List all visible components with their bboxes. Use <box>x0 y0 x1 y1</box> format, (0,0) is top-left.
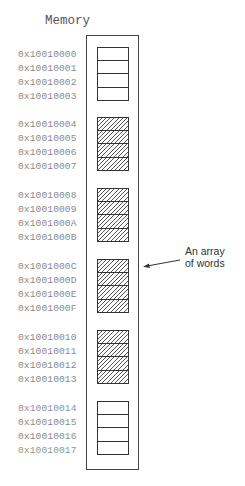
word-group-3 <box>97 259 129 313</box>
address-label: 0x10010004 <box>18 118 84 132</box>
address-label: 0x10010005 <box>18 132 84 146</box>
array-byte-cell <box>97 157 129 172</box>
address-label: 0x10010014 <box>18 402 84 416</box>
word-group-4 <box>97 330 129 384</box>
array-byte-cell <box>97 228 129 243</box>
address-label: 0x10010012 <box>18 359 84 373</box>
address-label: 0x10010002 <box>18 76 84 90</box>
address-label: 0x10010015 <box>18 416 84 430</box>
address-label: 0x10010003 <box>18 90 84 104</box>
array-byte-cell <box>97 370 129 385</box>
address-label: 0x10010006 <box>18 146 84 160</box>
address-label: 0x10010000 <box>18 48 84 62</box>
address-label: 0x1001000A <box>18 217 84 231</box>
address-label: 0x1001000F <box>18 302 84 316</box>
address-label: 0x10010007 <box>18 160 84 174</box>
memory-title: Memory <box>45 14 90 28</box>
address-label: 0x10010009 <box>18 203 84 217</box>
word-group-1 <box>97 117 129 171</box>
address-label: 0x1001000E <box>18 288 84 302</box>
word-group-0 <box>97 47 129 101</box>
address-label: 0x10010008 <box>18 189 84 203</box>
memory-byte-cell <box>97 441 129 456</box>
address-label: 0x10010001 <box>18 62 84 76</box>
address-label: 0x1001000D <box>18 274 84 288</box>
array-byte-cell <box>97 299 129 314</box>
address-label: 0x10010016 <box>18 430 84 444</box>
word-group-5 <box>97 401 129 455</box>
annotation-line-1: An array <box>185 245 225 257</box>
address-label: 0x10010011 <box>18 345 84 359</box>
memory-byte-cell <box>97 87 129 102</box>
address-label: 0x10010013 <box>18 373 84 387</box>
address-label: 0x1001000C <box>18 260 84 274</box>
address-label: 0x10010017 <box>18 444 84 458</box>
word-group-2 <box>97 188 129 242</box>
address-label: 0x10010010 <box>18 331 84 345</box>
array-annotation: An array of words <box>185 245 225 269</box>
annotation-line-2: of words <box>185 257 225 269</box>
address-label: 0x1001000B <box>18 231 84 245</box>
arrow-icon <box>140 255 185 271</box>
